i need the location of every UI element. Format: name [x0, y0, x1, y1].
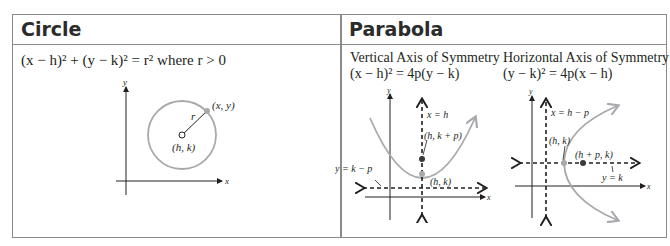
radius-label: r — [191, 110, 196, 122]
directrix-label: x = h − p — [550, 107, 589, 118]
x-axis-label: x — [486, 193, 491, 202]
vertical-axis-heading: Vertical Axis of Symmetry — [350, 50, 500, 66]
parabola-header: Parabola — [341, 15, 666, 45]
y-axis-label: y — [386, 88, 391, 95]
center-point — [179, 132, 185, 138]
parabola-curve — [370, 118, 475, 178]
vertex-label: (h, k) — [549, 135, 571, 147]
point-label: (x, y) — [212, 99, 235, 112]
circle-equation: (x − h)² + (y − k)² = r² where r > 0 — [21, 52, 226, 69]
vertical-parabola-equation: (x − h)² = 4p(y − k) — [350, 66, 460, 82]
y-axis-label: y — [528, 88, 533, 96]
circle-header: Circle — [13, 15, 340, 45]
horizontal-axis-heading: Horizontal Axis of Symmetry — [503, 50, 669, 66]
directrix-label: y = k − p — [335, 163, 372, 174]
center-label: (h, k) — [172, 141, 196, 154]
vertex-point — [419, 171, 425, 177]
y-axis-label: y — [122, 77, 127, 87]
vertex-label: (h, k) — [430, 176, 452, 188]
axis-label: x = h — [426, 109, 448, 120]
vertical-parabola-diagram: y x x = h (h, k + p) (h, k) y = k − p — [335, 88, 495, 223]
circle-diagram: y x (x, y) r (h, k) — [100, 75, 250, 200]
focus-point — [419, 156, 425, 162]
axis-label: y = k — [601, 172, 623, 183]
x-axis-label: x — [224, 176, 229, 186]
horizontal-parabola-diagram: y x x = h − p (h, k) (h + p, k) y = k — [495, 88, 670, 228]
focus-label: (h + p, k) — [575, 149, 614, 161]
horizontal-parabola-equation: (y − k)² = 4p(x − h) — [503, 66, 613, 82]
vertex-point — [561, 160, 567, 166]
focus-point — [580, 160, 586, 166]
focus-label: (h, k + p) — [424, 130, 463, 142]
x-axis-label: x — [646, 182, 651, 191]
point-on-circle — [204, 108, 210, 114]
